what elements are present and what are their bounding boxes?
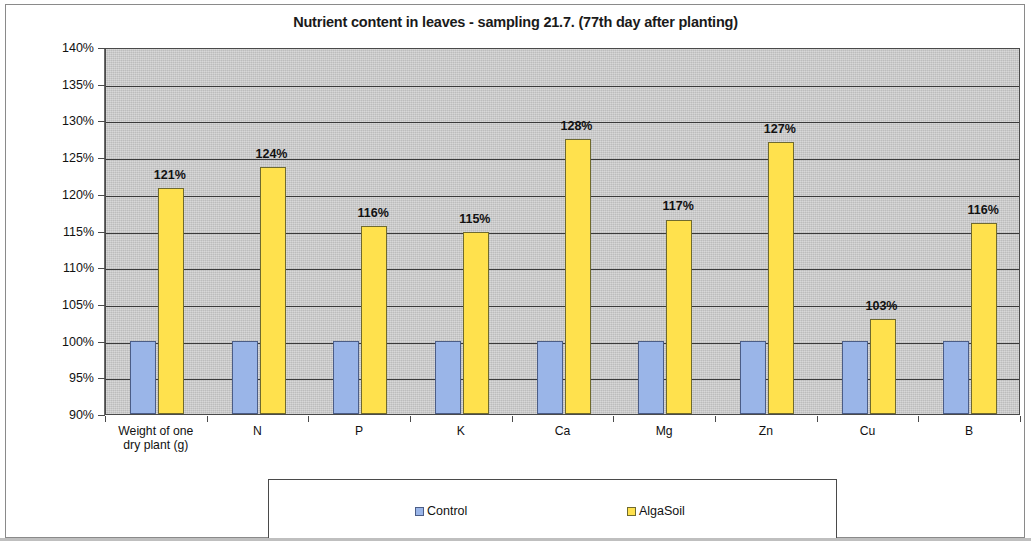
y-axis-label: 105% bbox=[36, 298, 94, 312]
gridline bbox=[106, 269, 1019, 270]
bar-algasoil-4 bbox=[565, 139, 591, 414]
x-axis-label-8: B bbox=[909, 424, 1029, 438]
bar-value-label: 117% bbox=[663, 199, 694, 213]
y-axis-tick bbox=[98, 415, 105, 416]
bar-value-label: 103% bbox=[866, 299, 898, 313]
bar-algasoil-6 bbox=[768, 142, 794, 414]
bar-control-2 bbox=[333, 341, 359, 414]
bar-algasoil-1 bbox=[260, 167, 286, 414]
x-axis-label-line: B bbox=[909, 424, 1029, 438]
gridline bbox=[106, 86, 1019, 87]
bar-algasoil-3 bbox=[463, 232, 489, 414]
algasoil-swatch bbox=[627, 507, 636, 516]
chart-title: Nutrient content in leaves - sampling 21… bbox=[0, 14, 1031, 30]
bar-value-label: 115% bbox=[459, 212, 490, 226]
y-axis-label: 95% bbox=[36, 371, 94, 385]
y-axis-tick bbox=[98, 85, 105, 86]
bar-control-8 bbox=[943, 341, 969, 414]
y-axis-tick bbox=[98, 48, 105, 49]
x-axis-tick bbox=[308, 416, 309, 422]
bar-control-4 bbox=[537, 341, 563, 414]
x-axis-tick bbox=[207, 416, 208, 422]
bar-control-1 bbox=[232, 341, 258, 414]
legend-item-algasoil[interactable]: AlgaSoil bbox=[627, 504, 685, 518]
x-axis-tick bbox=[410, 416, 411, 422]
bar-control-3 bbox=[435, 341, 461, 414]
chart-container: Nutrient content in leaves - sampling 21… bbox=[0, 0, 1031, 541]
y-axis-tick bbox=[98, 195, 105, 196]
bar-algasoil-0 bbox=[158, 188, 184, 414]
y-axis-label: 115% bbox=[36, 225, 94, 239]
bar-value-label: 128% bbox=[561, 119, 593, 133]
bar-control-5 bbox=[638, 341, 664, 414]
x-axis-tick bbox=[1020, 416, 1021, 422]
legend-item-label: AlgaSoil bbox=[639, 504, 685, 518]
y-axis-label: 135% bbox=[36, 78, 94, 92]
bar-control-7 bbox=[842, 341, 868, 414]
bar-value-label: 116% bbox=[968, 203, 999, 217]
y-axis-label: 120% bbox=[36, 188, 94, 202]
bar-value-label: 121% bbox=[154, 168, 186, 182]
y-axis-tick bbox=[98, 232, 105, 233]
y-axis-tick bbox=[98, 305, 105, 306]
x-axis-tick bbox=[715, 416, 716, 422]
y-axis-tick bbox=[98, 158, 105, 159]
chart-legend: ControlAlgaSoil bbox=[268, 479, 837, 541]
bar-algasoil-5 bbox=[666, 220, 692, 415]
bar-algasoil-7 bbox=[870, 319, 896, 414]
plot-area bbox=[105, 48, 1020, 415]
x-axis-label-line: dry plant (g) bbox=[96, 438, 216, 452]
legend-item-control[interactable]: Control bbox=[415, 504, 467, 518]
bar-algasoil-8 bbox=[971, 223, 997, 414]
control-swatch bbox=[415, 507, 424, 516]
gridline bbox=[106, 196, 1019, 197]
y-axis-label: 90% bbox=[36, 408, 94, 422]
y-axis-tick bbox=[98, 121, 105, 122]
y-axis-label: 140% bbox=[36, 41, 94, 55]
gridline bbox=[106, 233, 1019, 234]
x-axis-tick bbox=[918, 416, 919, 422]
y-axis-tick bbox=[98, 378, 105, 379]
y-axis-label: 100% bbox=[36, 335, 94, 349]
y-axis-label: 110% bbox=[36, 261, 94, 275]
y-axis-tick bbox=[98, 268, 105, 269]
x-axis-tick bbox=[817, 416, 818, 422]
bar-control-6 bbox=[740, 341, 766, 414]
legend-item-label: Control bbox=[427, 504, 467, 518]
x-axis-tick bbox=[512, 416, 513, 422]
gridline bbox=[106, 159, 1019, 160]
y-axis-label: 125% bbox=[36, 151, 94, 165]
bar-value-label: 124% bbox=[256, 147, 288, 161]
bar-control-0 bbox=[130, 341, 156, 414]
bar-value-label: 116% bbox=[358, 206, 389, 220]
y-axis-label: 130% bbox=[36, 114, 94, 128]
x-axis-tick bbox=[105, 416, 106, 422]
y-axis-tick bbox=[98, 342, 105, 343]
bar-algasoil-2 bbox=[361, 226, 387, 414]
x-axis-tick bbox=[613, 416, 614, 422]
bar-value-label: 127% bbox=[764, 122, 796, 136]
